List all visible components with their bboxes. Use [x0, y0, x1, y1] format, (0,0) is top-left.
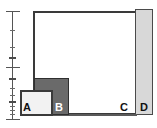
axis-spine	[12, 11, 13, 120]
box-label-b: B	[55, 102, 63, 113]
axis-tick-2	[9, 57, 16, 59]
axis-tick-4	[10, 88, 15, 89]
cap-bottom	[6, 119, 20, 120]
axis-tick-7	[10, 106, 15, 107]
axis-tick-5	[10, 95, 15, 96]
cap-top	[6, 11, 20, 12]
axis-tick-1	[10, 47, 15, 48]
axis-tick-0	[10, 30, 15, 31]
axis-tick-9	[10, 114, 15, 115]
box-label-d: D	[140, 102, 148, 113]
box-label-c: C	[120, 102, 128, 113]
cap-middle	[6, 67, 20, 68]
axis-tick-6	[9, 101, 16, 103]
axis-tick-3	[9, 78, 16, 80]
axis-tick-8	[10, 110, 15, 111]
box-d	[135, 9, 153, 115]
size-comparison-figure: C D B A	[0, 0, 157, 128]
box-label-a: A	[23, 102, 31, 113]
